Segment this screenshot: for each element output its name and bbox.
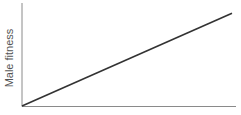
y-axis-label-container: Male fitness [0,0,18,115]
plot-area [0,0,241,115]
y-axis-label: Male fitness [3,28,15,87]
chart: Male fitness [0,0,241,115]
data-line [22,13,232,106]
